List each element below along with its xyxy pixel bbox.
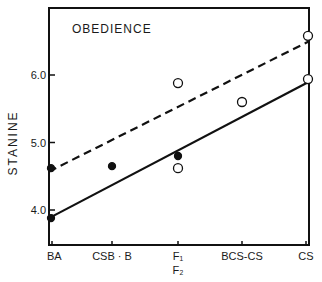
- x-tick-label: F₁: [173, 250, 184, 262]
- x-tick-label: BA: [47, 250, 62, 262]
- open-data-point: [304, 31, 313, 40]
- solid-regression-line: [49, 82, 309, 218]
- x-tick-label: CSB · B: [92, 250, 132, 262]
- x-tick-label: F₂: [173, 264, 184, 276]
- y-tick-label: 6.0: [31, 69, 46, 81]
- obedience-chart: 4.05.06.0BACSB · BF₁F₂BCS-CSCS OBEDIENCE…: [0, 0, 322, 282]
- plot-frame: [49, 8, 309, 245]
- filled-data-point: [175, 153, 182, 160]
- filled-data-point: [109, 163, 116, 170]
- y-tick-label: 4.0: [31, 204, 46, 216]
- chart-title: OBEDIENCE: [72, 22, 152, 36]
- x-tick-label: BCS-CS: [221, 250, 263, 262]
- y-axis-label: STANINE: [6, 110, 20, 175]
- open-data-point: [174, 164, 183, 173]
- open-data-point: [238, 98, 247, 107]
- open-data-point: [304, 75, 313, 84]
- open-data-point: [174, 79, 183, 88]
- x-tick-label: CS: [298, 250, 313, 262]
- y-tick-label: 5.0: [31, 137, 46, 149]
- filled-data-point: [48, 215, 55, 222]
- filled-data-point: [48, 165, 55, 172]
